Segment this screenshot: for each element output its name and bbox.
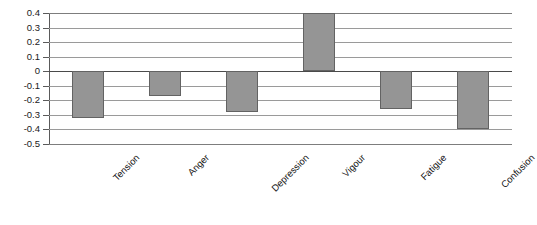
y-axis-tick xyxy=(43,86,49,87)
x-axis-tick-label: Confusion xyxy=(499,152,537,190)
y-axis-tick xyxy=(43,13,49,14)
y-axis-tick xyxy=(43,100,49,101)
y-axis-tick xyxy=(43,28,49,29)
y-axis-tick xyxy=(43,42,49,43)
y-axis-tick xyxy=(43,57,49,58)
x-axis-tick-label: Fatigue xyxy=(419,152,449,182)
x-axis-tick-label: Anger xyxy=(185,152,211,178)
y-axis-tick xyxy=(43,129,49,130)
y-axis-tick xyxy=(43,144,49,145)
x-axis-tick-label: Tension xyxy=(110,152,141,183)
x-axis-tick-label: Depression xyxy=(269,152,311,194)
y-axis-tick xyxy=(43,115,49,116)
x-axis-tick-label: Vigour xyxy=(340,152,367,179)
y-axis-tick xyxy=(43,71,49,72)
